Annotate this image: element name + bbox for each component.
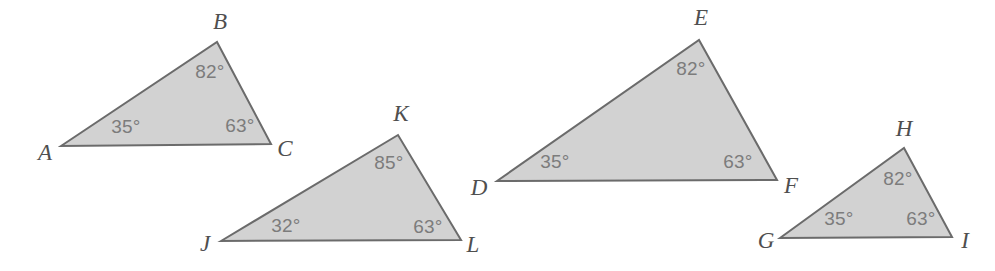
triangle-ghi-vertex-label-h: H xyxy=(895,116,914,141)
triangle-jkl-vertex-label-k: K xyxy=(392,101,410,126)
triangle-def-angle-e: 82° xyxy=(676,58,705,79)
triangle-abc-vertex-label-b: B xyxy=(213,9,227,34)
triangle-def: 35°82°63°DEF xyxy=(470,5,799,200)
triangle-jkl-angle-k: 85° xyxy=(374,152,403,173)
triangle-def-vertex-label-d: D xyxy=(470,175,488,200)
triangle-jkl-angle-l: 63° xyxy=(413,216,442,237)
similar-triangles-figure: 35°82°63°ABC32°85°63°JKL35°82°63°DEF35°8… xyxy=(0,0,995,271)
triangle-abc-angle-c: 63° xyxy=(225,115,254,136)
triangle-ghi-vertex-label-g: G xyxy=(758,228,775,253)
triangle-abc-angle-b: 82° xyxy=(195,61,224,82)
triangle-ghi-angle-i: 63° xyxy=(906,208,935,229)
triangle-jkl-angle-j: 32° xyxy=(271,215,300,236)
triangle-abc-vertex-label-c: C xyxy=(277,136,293,161)
triangle-def-vertex-label-e: E xyxy=(693,5,708,30)
figure-canvas: 35°82°63°ABC32°85°63°JKL35°82°63°DEF35°8… xyxy=(0,0,995,271)
triangle-def-vertex-label-f: F xyxy=(783,173,799,198)
triangle-ghi-angle-g: 35° xyxy=(824,208,853,229)
triangle-jkl-vertex-label-j: J xyxy=(200,231,212,256)
triangle-ghi-angle-h: 82° xyxy=(883,168,912,189)
triangle-abc-vertex-label-a: A xyxy=(36,140,53,165)
triangle-def-angle-f: 63° xyxy=(723,151,752,172)
triangle-jkl-vertex-label-l: L xyxy=(466,232,480,257)
triangle-abc: 35°82°63°ABC xyxy=(36,9,293,165)
triangle-ghi-vertex-label-i: I xyxy=(960,228,970,253)
triangle-abc-angle-a: 35° xyxy=(111,116,140,137)
triangle-def-angle-d: 35° xyxy=(540,151,569,172)
